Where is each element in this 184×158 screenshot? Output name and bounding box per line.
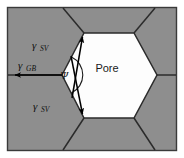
gamma-sv-top-symbol: γ	[32, 39, 37, 51]
gamma-gb-symbol: γ	[18, 59, 23, 71]
gamma-sv-top-subscript: SV	[40, 44, 50, 53]
figure-container: γ SV γ SV γ GB Ψ Pore	[0, 0, 184, 158]
gamma-sv-bottom-symbol: γ	[33, 100, 38, 112]
gamma-sv-bottom-subscript: SV	[41, 105, 51, 114]
pore-label: Pore	[95, 62, 118, 74]
gamma-gb-subscript: GB	[26, 64, 36, 73]
pore-diagram-svg: γ SV γ SV γ GB Ψ Pore	[0, 0, 184, 158]
psi-label: Ψ	[60, 69, 69, 81]
